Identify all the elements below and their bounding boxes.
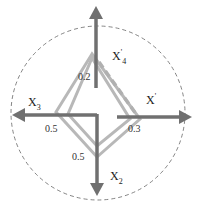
tick-value-right: 0.3 [128, 124, 141, 134]
axis-label-x2: X2 [110, 170, 123, 182]
arrow-left-icon [12, 108, 25, 122]
arrow-up-icon [89, 6, 103, 19]
axis-label-x4: X'4 [112, 50, 126, 62]
tick-value-up: 0.2 [78, 72, 91, 82]
tick-value-down: 0.5 [72, 152, 85, 162]
arrow-right-icon [179, 110, 192, 124]
axis-label-x3: X3 [28, 96, 41, 108]
axis-label-x1: X' [146, 94, 156, 106]
tick-value-left: 0.5 [45, 124, 58, 134]
arrow-down-icon [90, 183, 104, 196]
